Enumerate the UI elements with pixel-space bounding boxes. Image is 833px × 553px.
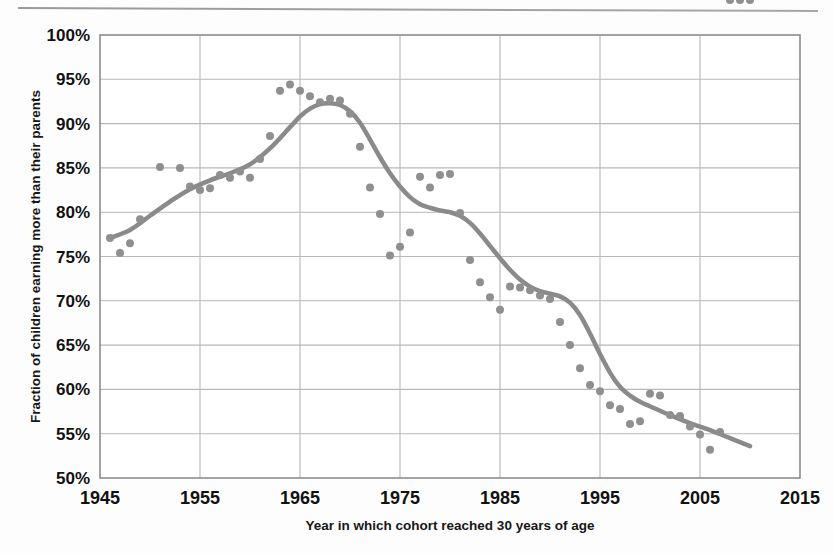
data-point: [626, 420, 634, 428]
data-point: [566, 341, 574, 349]
data-point: [296, 87, 304, 95]
data-point: [706, 446, 714, 454]
data-point: [406, 229, 414, 237]
data-point: [646, 390, 654, 398]
y-tick-label-80: 80%: [56, 203, 90, 222]
y-axis-tick-labels: 50%55%60%65%70%75%80%85%90%95%100%: [47, 26, 90, 488]
data-point: [696, 431, 704, 439]
data-point: [586, 381, 594, 389]
x-tick-label-1945: 1945: [80, 488, 120, 508]
data-point: [316, 98, 324, 106]
data-point: [356, 143, 364, 151]
data-point: [336, 97, 344, 105]
data-point: [196, 186, 204, 194]
data-point: [346, 110, 354, 118]
y-tick-label-90: 90%: [56, 115, 90, 134]
data-point: [606, 401, 614, 409]
data-point: [666, 411, 674, 419]
y-tick-label-85: 85%: [56, 159, 90, 178]
x-tick-label-1975: 1975: [380, 488, 420, 508]
data-point: [686, 423, 694, 431]
data-point: [496, 306, 504, 314]
data-point: [516, 284, 524, 292]
data-point: [486, 293, 494, 301]
data-point: [106, 234, 114, 242]
x-tick-label-1995: 1995: [580, 488, 620, 508]
data-point: [576, 364, 584, 372]
y-tick-label-65: 65%: [56, 336, 90, 355]
data-point: [386, 252, 394, 260]
data-point: [226, 174, 234, 182]
x-axis-title: Year in which cohort reached 30 years of…: [306, 518, 595, 533]
data-point: [186, 183, 194, 191]
data-point: [416, 173, 424, 181]
data-point: [436, 171, 444, 179]
x-tick-label-1985: 1985: [480, 488, 520, 508]
y-tick-label-60: 60%: [56, 380, 90, 399]
data-point: [136, 215, 144, 223]
absolute-mobility-chart: 50%55%60%65%70%75%80%85%90%95%100% 19451…: [0, 0, 833, 553]
data-point: [116, 249, 124, 257]
data-point: [526, 286, 534, 294]
data-point: [176, 164, 184, 172]
data-point: [246, 174, 254, 182]
x-tick-label-1955: 1955: [180, 488, 220, 508]
data-point: [636, 417, 644, 425]
x-tick-label-2015: 2015: [780, 488, 820, 508]
data-point: [216, 171, 224, 179]
y-tick-label-75: 75%: [56, 248, 90, 267]
data-point: [476, 278, 484, 286]
data-point: [126, 239, 134, 247]
data-point: [616, 405, 624, 413]
x-tick-label-1965: 1965: [280, 488, 320, 508]
data-point: [726, 0, 734, 4]
y-tick-label-55: 55%: [56, 425, 90, 444]
x-axis-tick-labels: 19451955196519751985199520052015: [80, 488, 820, 508]
data-point: [326, 95, 334, 103]
data-point: [596, 387, 604, 395]
data-point: [266, 132, 274, 140]
y-tick-label-100: 100%: [47, 26, 90, 45]
y-tick-label-95: 95%: [56, 70, 90, 89]
data-point: [306, 92, 314, 100]
data-point: [676, 412, 684, 420]
data-point: [456, 209, 464, 217]
data-point: [396, 243, 404, 251]
data-point: [366, 183, 374, 191]
data-point: [276, 87, 284, 95]
data-point: [736, 0, 744, 4]
data-point: [556, 318, 564, 326]
data-point: [506, 283, 514, 291]
data-point: [466, 256, 474, 264]
data-point: [286, 81, 294, 89]
data-point: [546, 295, 554, 303]
data-point: [206, 184, 214, 192]
data-point: [426, 183, 434, 191]
data-point: [746, 0, 754, 4]
y-axis-title: Fraction of children earning more than t…: [28, 90, 43, 423]
data-point: [536, 291, 544, 299]
data-point: [156, 163, 164, 171]
data-point: [376, 210, 384, 218]
x-tick-label-2005: 2005: [680, 488, 720, 508]
y-tick-label-70: 70%: [56, 292, 90, 311]
data-point: [236, 167, 244, 175]
data-point: [716, 428, 724, 436]
y-tick-label-50: 50%: [56, 469, 90, 488]
data-point: [656, 392, 664, 400]
data-point: [256, 155, 264, 163]
data-point: [446, 170, 454, 178]
chart-figure: 50%55%60%65%70%75%80%85%90%95%100% 19451…: [0, 0, 833, 553]
